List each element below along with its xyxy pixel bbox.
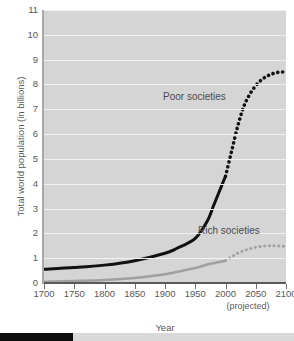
population-growth-chart: Poor societies Rich societies 1110987654… <box>0 0 294 341</box>
x-axis-title: Year <box>44 322 286 333</box>
projected-note: (projected) <box>208 301 288 311</box>
y-axis-title: Total world population (in billions) <box>14 10 28 283</box>
x-tick-label: 2100 <box>266 288 294 299</box>
footer-bar-light <box>73 333 294 341</box>
footer-bar-dark <box>0 333 73 341</box>
